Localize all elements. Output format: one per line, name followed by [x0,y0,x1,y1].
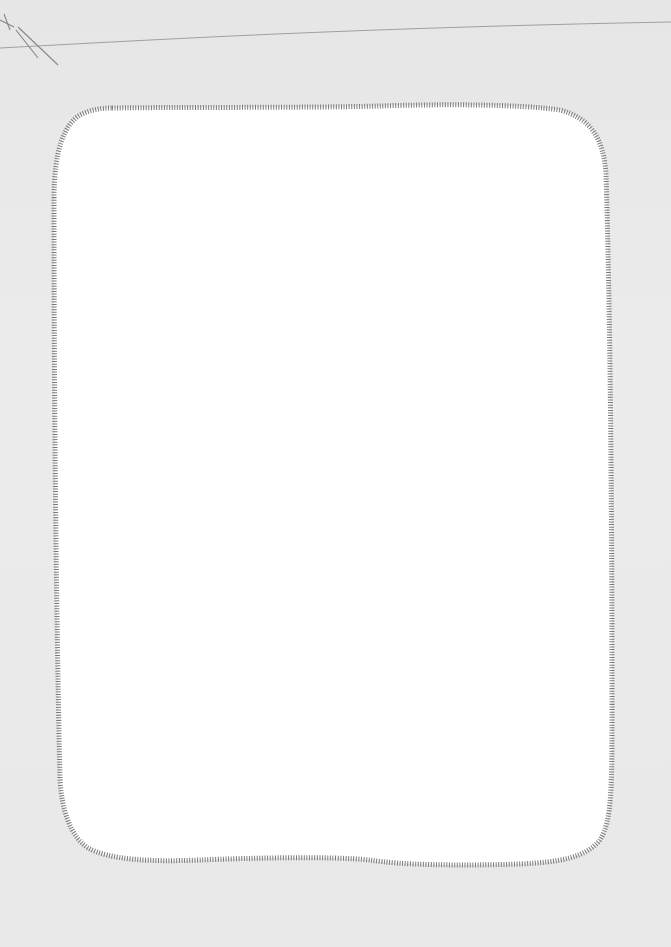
frame-fill [54,105,612,865]
page-edge-line [0,22,671,48]
pencil-strokes-icon [0,14,58,65]
decorative-frame-graphic [0,0,671,947]
scanned-page [0,0,671,947]
